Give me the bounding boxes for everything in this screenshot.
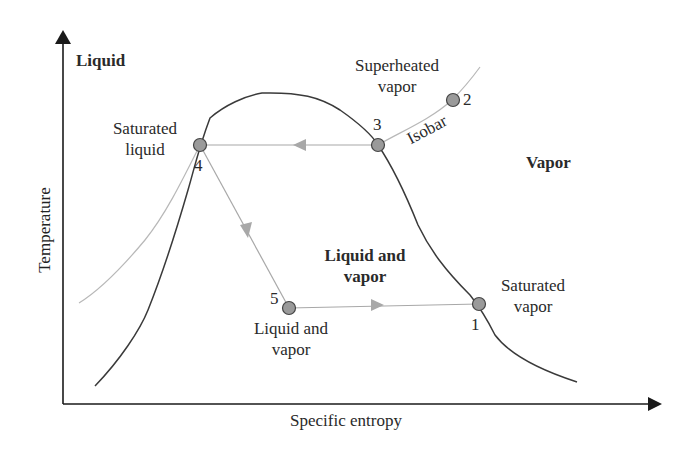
label-point-3-line2: vapor [342,76,452,97]
region-label-liquid-and-vapor: Liquid and vapor [310,245,420,287]
arrow-5-to-1-icon [371,299,384,311]
region-label-liquid-and-vapor-line2: vapor [310,266,420,287]
label-point-4: Saturated liquid [100,118,190,160]
label-point-1-line2: vapor [483,296,583,317]
x-axis-arrow-icon [648,397,662,411]
isobar-curve-liquid [79,145,200,303]
arrow-3-to-4-icon [293,139,306,151]
label-point-5-line1: Liquid and [236,318,346,339]
label-point-5: Liquid and vapor [236,318,346,360]
number-point-4: 4 [194,157,203,175]
y-axis-label: Temperature [35,180,55,280]
region-label-liquid-and-vapor-line1: Liquid and [310,245,420,266]
x-axis [63,397,662,411]
state-point-4[interactable] [194,139,207,152]
state-point-5[interactable] [283,302,296,315]
number-point-1: 1 [471,316,480,334]
number-point-2: 2 [463,91,472,109]
label-point-5-line2: vapor [236,339,346,360]
label-point-4-line1: Saturated [100,118,190,139]
label-point-4-line2: liquid [100,139,190,160]
y-axis-arrow-icon [55,30,71,44]
label-point-1-line1: Saturated [483,275,583,296]
x-axis-label: Specific entropy [290,410,402,431]
number-point-3: 3 [373,116,382,134]
region-label-liquid: Liquid [76,50,125,71]
label-point-3: Superheated vapor [342,55,452,97]
region-label-vapor: Vapor [526,152,571,173]
arrow-4-to-5-icon [240,222,252,238]
y-axis [55,30,71,404]
state-point-3[interactable] [372,139,385,152]
number-point-5: 5 [270,290,279,308]
label-point-1: Saturated vapor [483,275,583,317]
label-point-3-line1: Superheated [342,55,452,76]
